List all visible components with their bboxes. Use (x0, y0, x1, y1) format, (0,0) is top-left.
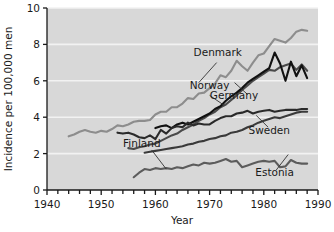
y-tick-label-10: 10 (27, 2, 40, 14)
y-tick-label-0: 0 (33, 184, 40, 196)
x-tick-label-1970: 1970 (196, 198, 223, 210)
series-label-germany: Germany (210, 89, 258, 101)
chart-canvas: 0246810194019501960197019801990 DenmarkN… (0, 0, 334, 232)
x-tick-label-1980: 1980 (250, 198, 277, 210)
series-label-denmark: Denmark (194, 46, 243, 58)
incidence-line-chart: 0246810194019501960197019801990 DenmarkN… (0, 0, 334, 232)
series-label-sweden: Sweden (248, 124, 290, 136)
y-tick-label-2: 2 (33, 148, 40, 160)
series-label-estonia: Estonia (255, 166, 294, 178)
x-tick-label-1950: 1950 (88, 198, 115, 210)
y-tick-label-8: 8 (33, 38, 40, 50)
x-axis-title: Year (170, 214, 194, 226)
series-label-finland: Finland (123, 137, 161, 149)
x-tick-label-1940: 1940 (34, 198, 61, 210)
y-tick-label-4: 4 (33, 111, 40, 123)
x-tick-label-1960: 1960 (142, 198, 169, 210)
x-tick-label-1990: 1990 (305, 198, 332, 210)
y-tick-label-6: 6 (33, 75, 40, 87)
y-axis-title: Incidence per 100,000 men (2, 27, 14, 172)
